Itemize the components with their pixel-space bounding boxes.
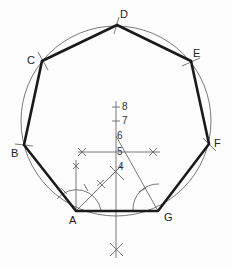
point-label-7: 7 — [122, 116, 128, 126]
heptagon-construction-diagram: A B C D E F G 8 7 6 5 4 — [0, 0, 232, 267]
point-label-5: 5 — [117, 147, 123, 157]
vertex-label-e: E — [193, 48, 200, 59]
vertex-label-b: B — [11, 148, 18, 159]
construction-drawing — [0, 0, 232, 267]
vertex-label-a: A — [69, 215, 76, 226]
arc-tick-g — [139, 188, 146, 192]
vertex-label-f: F — [214, 138, 221, 149]
heptagon-outline — [24, 25, 209, 211]
point-label-6: 6 — [117, 131, 123, 141]
arc-tick-a — [84, 184, 88, 191]
vertex-label-g: G — [164, 212, 173, 223]
vertex-label-d: D — [120, 9, 128, 20]
vertex-label-c: C — [27, 55, 35, 66]
cross-diag-1 — [97, 180, 105, 188]
point-label-4: 4 — [118, 162, 124, 172]
point-label-8: 8 — [122, 102, 128, 112]
